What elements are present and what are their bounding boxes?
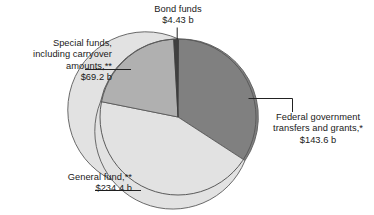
slice-label-special-funds-line1: Special funds, [2, 38, 112, 49]
slice-label-general-fund: General fund,** $234.4 b [26, 172, 132, 195]
slice-label-special-funds: Special funds, including carryover amoun… [2, 38, 112, 84]
slice-label-general-fund-name: General fund,** [26, 172, 132, 183]
slice-label-special-funds-line3: amounts,** [2, 61, 112, 72]
slice-label-special-funds-value: $69.2 b [2, 72, 112, 83]
slice-label-federal-transfers-value: $143.6 b [264, 135, 372, 146]
slice-label-bond-funds-value: $4.43 b [128, 15, 228, 26]
slice-label-federal-transfers: Federal government transfers and grants,… [264, 112, 372, 146]
pie-chart: Bond funds $4.43 b Special funds, includ… [0, 0, 374, 215]
slice-label-bond-funds: Bond funds $4.43 b [128, 4, 228, 27]
slice-label-federal-transfers-line1: Federal government [264, 112, 372, 123]
slice-label-federal-transfers-line2: transfers and grants,* [264, 123, 372, 134]
slice-label-bond-funds-name: Bond funds [128, 4, 228, 15]
slice-label-special-funds-line2: including carryover [2, 49, 112, 60]
slice-label-general-fund-value: $234.4 b [26, 183, 132, 194]
